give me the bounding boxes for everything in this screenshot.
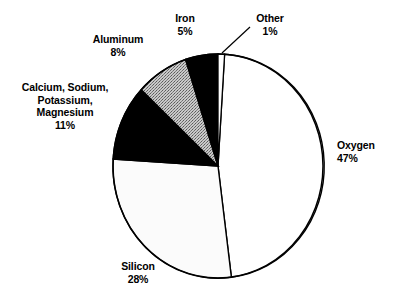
slice-label-aluminum: Aluminum 8% [79,33,157,58]
slice-label-oxygen-percent: 47% [337,152,395,165]
slice-label-camix-line2: Potassium, [6,94,124,107]
slice-label-oxygen-name: Oxygen [337,139,395,152]
pie-slice-oxygen[interactable] [218,54,324,277]
slice-label-iron: Iron 5% [155,12,215,37]
slice-label-silicon-name: Silicon [107,260,169,273]
slice-label-iron-percent: 5% [155,25,215,38]
slice-label-camix-line3: Magnesium [6,106,124,119]
slice-label-aluminum-name: Aluminum [79,33,157,46]
pie-chart-figure: Iron 5% Other 1% Aluminum 8% Calcium, So… [0,0,398,303]
slice-label-camix-line1: Calcium, Sodium, [6,81,124,94]
slice-label-silicon-percent: 28% [107,273,169,286]
slice-label-other-name: Other [243,12,297,25]
slice-label-calcium-sodium-potassium-magnesium: Calcium, Sodium, Potassium, Magnesium 11… [6,81,124,131]
slice-label-iron-name: Iron [155,12,215,25]
slice-label-other: Other 1% [243,12,297,37]
slice-label-oxygen: Oxygen 47% [337,139,395,164]
slice-label-other-percent: 1% [243,25,297,38]
slice-label-silicon: Silicon 28% [107,260,169,285]
slice-label-camix-percent: 11% [6,119,124,132]
slice-label-aluminum-percent: 8% [79,46,157,59]
